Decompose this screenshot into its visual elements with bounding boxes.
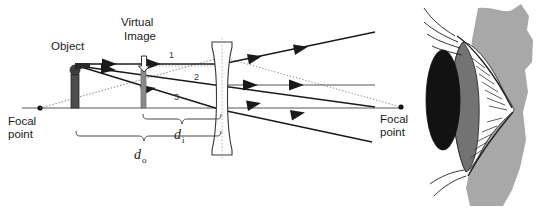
optics-diagram-canvas: d i d o Object Virtual Image Focal point… xyxy=(0,0,543,210)
label-object-distance: d o xyxy=(134,147,147,165)
eye-upper-eyelashes xyxy=(424,8,462,55)
brace-image-distance xyxy=(143,114,221,124)
focal-point-right-label-line1: Focal xyxy=(380,113,408,125)
focal-point-left-label-line2: point xyxy=(8,128,34,140)
object-figure xyxy=(70,63,90,108)
brace-object-distance xyxy=(76,131,221,141)
focal-point-right-label-line2: point xyxy=(380,126,406,138)
eye-lower-eyelashes xyxy=(430,170,466,196)
ray-3-label: 3 xyxy=(174,92,179,102)
d-i-variable: d xyxy=(174,127,182,142)
object-label: Object xyxy=(51,40,85,52)
virtual-image-label-line1: Virtual xyxy=(121,16,153,28)
diverging-lens xyxy=(212,38,232,160)
focal-point-left-label-line1: Focal xyxy=(8,115,36,127)
ray-1-label: 1 xyxy=(169,50,174,60)
ray-2-label: 2 xyxy=(194,72,199,82)
eye-pupil xyxy=(426,50,460,150)
eye-illustration xyxy=(424,4,533,206)
virtual-image-label-line2: Image xyxy=(124,30,156,42)
ray-diagram-svg: d i d o Object Virtual Image Focal point… xyxy=(0,0,543,210)
d-o-variable: d xyxy=(134,147,142,162)
ray-middle-horizontal xyxy=(222,80,375,91)
d-o-subscript: o xyxy=(142,155,147,165)
